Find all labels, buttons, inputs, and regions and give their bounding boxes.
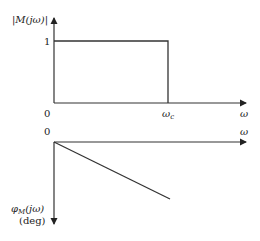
filter-response-diagram: |M(jω)| 1 0 ωc ω 0 ω φM(jω) (deg)	[0, 0, 260, 241]
phase-arg: (jω)	[25, 203, 44, 214]
cutoff-omega: ω	[162, 108, 170, 119]
phase-y-axis-unit: (deg)	[19, 215, 46, 226]
magnitude-cutoff-label: ωc	[162, 108, 174, 121]
phase-curve	[54, 142, 170, 199]
magnitude-plot: |M(jω)| 1 0 ωc ω	[12, 14, 248, 121]
magnitude-tick-one: 1	[44, 36, 50, 47]
phase-phi: φ	[11, 203, 18, 214]
magnitude-curve	[54, 41, 168, 103]
phase-plot: 0 ω φM(jω) (deg)	[11, 126, 248, 226]
magnitude-y-axis-label: |M(jω)|	[12, 14, 48, 26]
phase-x-axis-label: ω	[240, 126, 248, 137]
cutoff-subscript: c	[170, 113, 174, 121]
phase-origin-label: 0	[44, 126, 50, 137]
magnitude-origin-label: 0	[44, 108, 50, 119]
magnitude-x-axis-label: ω	[240, 108, 248, 119]
